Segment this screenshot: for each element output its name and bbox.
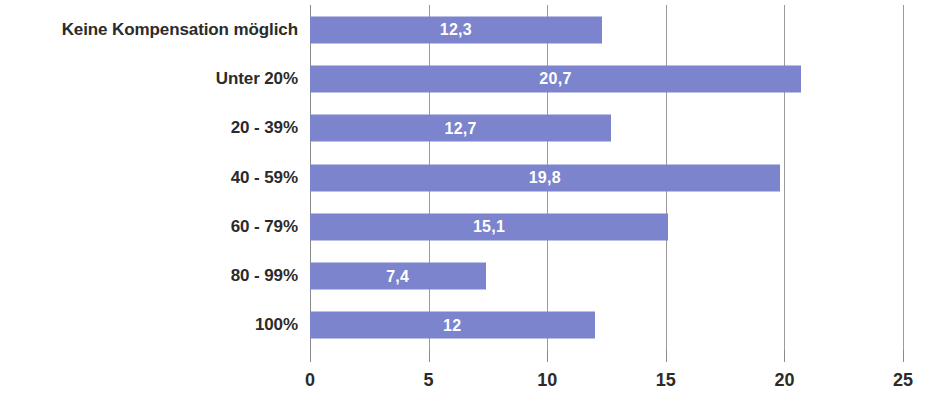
bar-value-label: 12,3 — [440, 21, 472, 39]
x-tick-label: 0 — [305, 370, 315, 391]
category-label: Unter 20% — [2, 69, 298, 89]
bar-value-label: 12,7 — [444, 119, 476, 137]
category-label: 80 - 99% — [2, 266, 298, 286]
bar-row: 12,7 — [310, 115, 903, 142]
category-label: 60 - 79% — [2, 217, 298, 237]
bar-row: 12,3 — [310, 16, 903, 43]
x-tick-mark — [784, 350, 785, 362]
gridline — [903, 5, 904, 350]
category-axis: Keine Kompensation möglichUnter 20%20 - … — [0, 0, 298, 356]
x-tick-mark — [547, 350, 548, 362]
plot-area: 12,320,712,719,815,17,412 — [310, 5, 903, 350]
x-tick-mark — [310, 350, 311, 362]
bar-value-label: 19,8 — [529, 169, 561, 187]
bar-series: 12,320,712,719,815,17,412 — [310, 5, 903, 350]
category-label: 40 - 59% — [2, 168, 298, 188]
bar-value-label: 12 — [443, 316, 461, 334]
bar-row: 19,8 — [310, 164, 903, 191]
bar-row: 15,1 — [310, 213, 903, 240]
bar-value-label: 15,1 — [473, 218, 505, 236]
bar-chart: Keine Kompensation möglichUnter 20%20 - … — [0, 0, 926, 401]
x-tick-mark — [903, 350, 904, 362]
bar-row: 7,4 — [310, 263, 903, 290]
category-label: 100% — [2, 315, 298, 335]
x-tick-mark — [666, 350, 667, 362]
x-tick-label: 15 — [656, 370, 676, 391]
value-axis: 0510152025 — [310, 350, 903, 401]
x-tick-label: 5 — [424, 370, 434, 391]
category-label: 20 - 39% — [2, 118, 298, 138]
x-tick-label: 25 — [893, 370, 913, 391]
bar-value-label: 20,7 — [539, 70, 571, 88]
bar-value-label: 7,4 — [386, 267, 409, 285]
x-tick-label: 10 — [537, 370, 557, 391]
bar-row: 12 — [310, 312, 903, 339]
x-tick-mark — [429, 350, 430, 362]
category-label: Keine Kompensation möglich — [2, 20, 298, 40]
x-tick-label: 20 — [774, 370, 794, 391]
bar-row: 20,7 — [310, 65, 903, 92]
